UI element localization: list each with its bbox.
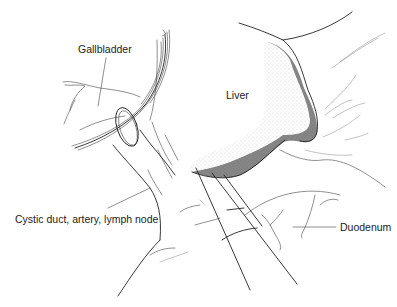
label-cystic-duct-artery-lymph-node: Cystic duct, artery, lymph node: [15, 213, 158, 225]
liver-upper-edge: [239, 12, 352, 40]
anatomy-drawing: [0, 0, 397, 307]
instrument-shafts: [180, 168, 297, 290]
label-liver: Liver: [226, 89, 249, 101]
gallbladder-leader: [98, 58, 106, 106]
label-gallbladder: Gallbladder: [78, 43, 132, 55]
illustration-canvas: Gallbladder Liver Cystic duct, artery, l…: [0, 0, 397, 307]
liver-lobe: [190, 40, 318, 178]
cystic-leader: [108, 188, 150, 208]
label-duodenum: Duodenum: [340, 221, 391, 233]
